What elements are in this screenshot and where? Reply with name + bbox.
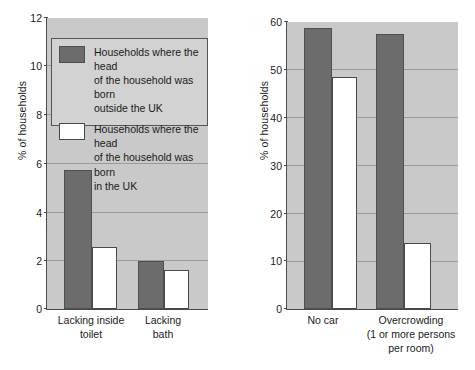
right-y-tick-10: 10 (254, 256, 282, 267)
right-bar-overcrowding-outside-uk (376, 34, 404, 309)
right-bar-nocar-outside-uk (304, 28, 332, 309)
left-category-label-toilet: Lacking inside toilet (51, 314, 131, 342)
legend-item-outside-uk: Households where the head of the househo… (59, 45, 200, 115)
left-y-tick-8: 8 (18, 110, 42, 121)
left-plot-area: Households where the head of the househo… (46, 18, 208, 310)
right-y-tick-30: 30 (254, 161, 282, 172)
left-chart-legend: Households where the head of the househo… (51, 38, 208, 126)
left-y-tick-2: 2 (18, 256, 42, 267)
right-y-tick-60: 60 (254, 17, 282, 28)
right-bar-nocar-in-uk (332, 77, 357, 309)
right-category-label-overcrowding: Overcrowding (1 or more persons per room… (352, 314, 470, 356)
left-bar-bath-outside-uk (138, 261, 164, 309)
left-bar-toilet-in-uk (92, 247, 117, 309)
right-category-label-no-car: No car (292, 314, 354, 328)
two-panel-bar-chart-figure: % of households 12 10 8 6 4 2 0 (0, 0, 475, 370)
left-y-tick-4: 4 (18, 208, 42, 219)
legend-swatch-light-icon (59, 123, 85, 140)
right-y-tick-0: 0 (254, 304, 282, 315)
left-chart-panel: % of households 12 10 8 6 4 2 0 (0, 0, 232, 370)
right-bar-overcrowding-in-uk (404, 243, 431, 309)
left-y-tick-6: 6 (18, 159, 42, 170)
right-y-tick-40: 40 (254, 113, 282, 124)
left-y-tick-0: 0 (18, 304, 42, 315)
right-plot-area (286, 22, 458, 310)
left-bar-bath-in-uk (164, 270, 189, 309)
left-y-tick-10: 10 (18, 61, 42, 72)
right-y-tick-50: 50 (254, 65, 282, 76)
left-category-label-bath: Lacking bath (128, 314, 198, 342)
right-y-tick-20: 20 (254, 209, 282, 220)
legend-item-in-uk: Households where the head of the househo… (59, 122, 200, 192)
legend-label-in-uk: Households where the head of the househo… (94, 122, 200, 192)
legend-swatch-dark-icon (59, 46, 85, 63)
right-chart-panel: % of households 60 50 40 30 20 10 0 (240, 0, 475, 370)
legend-label-outside-uk: Households where the head of the househo… (94, 45, 200, 115)
left-y-tick-12: 12 (18, 13, 42, 24)
